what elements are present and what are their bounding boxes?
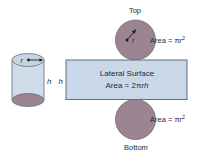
cylinder-height-label: h [47, 77, 52, 86]
lateral-surface-label: Lateral Surface [100, 69, 155, 78]
bottom-area-formula: Area = πr2 [150, 114, 185, 125]
top-area-formula: Area = πr2 [150, 35, 185, 46]
lateral-surface-rect [66, 60, 187, 100]
cylinder: r h [12, 54, 52, 107]
area-var: rh [141, 81, 149, 90]
area-exponent: 2 [182, 114, 185, 120]
cylinder-net-diagram: r h h Top r Area = πr2 Bottom Area = πr2… [0, 0, 208, 159]
area-prefix: Area = π [150, 36, 180, 45]
bottom-label: Bottom [124, 143, 148, 152]
area-exponent: 2 [182, 35, 185, 41]
net-height-label: h [59, 77, 64, 86]
area-prefix: Area = π [150, 115, 180, 124]
cylinder-bottom-base [12, 94, 44, 107]
lateral-area-formula: Area = 2πrh [105, 81, 149, 90]
area-prefix: Area = 2π [105, 81, 141, 90]
top-label: Top [129, 6, 141, 15]
cylinder-net: h Top r Area = πr2 Bottom Area = πr2 Lat… [59, 6, 188, 152]
